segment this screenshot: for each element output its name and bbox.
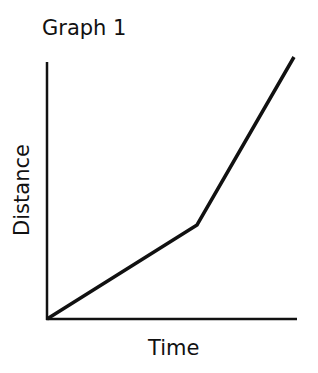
y-axis-label: Distance [8,144,36,236]
distance-time-line [47,57,294,319]
plot-area [0,0,318,373]
x-axis-label: Time [148,334,199,362]
